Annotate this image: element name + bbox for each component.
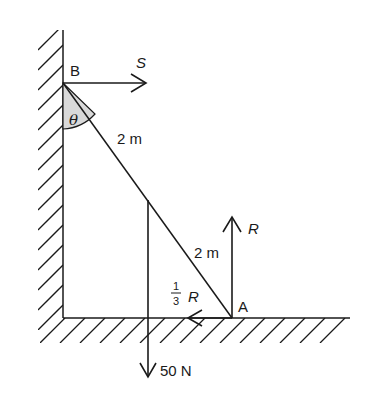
friction-arrow xyxy=(188,310,232,326)
friction-label: 1 3 R xyxy=(171,280,199,307)
weight-arrow xyxy=(140,200,156,377)
wall-hatching xyxy=(38,25,63,330)
point-b-label: B xyxy=(70,62,80,79)
force-s-label: S xyxy=(136,54,146,71)
friction-symbol: R xyxy=(188,288,199,305)
force-r-label: R xyxy=(248,220,259,237)
ladder-diagram: B S θ 2 m 2 m R A 1 3 R 50 N xyxy=(0,0,365,403)
point-a-label: A xyxy=(238,298,248,315)
upper-length-label: 2 m xyxy=(117,130,142,147)
lower-length-label: 2 m xyxy=(194,244,219,261)
friction-denominator: 3 xyxy=(173,295,179,307)
friction-numerator: 1 xyxy=(173,280,179,292)
floor-hatching xyxy=(40,318,345,343)
weight-label: 50 N xyxy=(160,362,192,379)
angle-theta-label: θ xyxy=(69,111,78,129)
